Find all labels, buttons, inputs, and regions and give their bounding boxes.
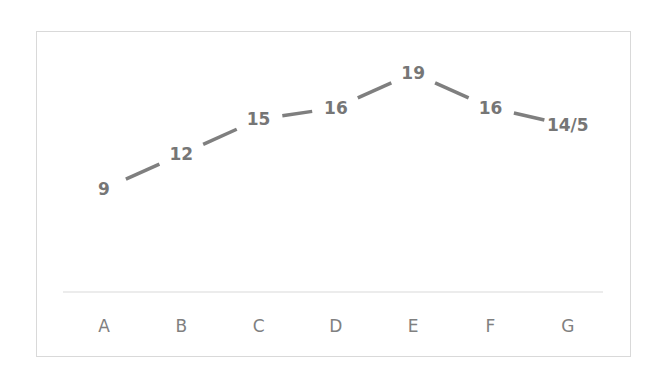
category-label: D <box>329 316 342 336</box>
line-segment <box>435 83 469 98</box>
data-label: 14/5 <box>547 115 589 135</box>
category-label: B <box>175 316 187 336</box>
line-chart: 9121516191614/5 ABCDEFG <box>0 0 664 377</box>
data-label: 12 <box>169 144 193 164</box>
line-segment <box>126 164 160 179</box>
category-axis-labels: ABCDEFG <box>98 316 574 336</box>
category-label: A <box>98 316 110 336</box>
category-label: E <box>408 316 419 336</box>
data-label: 16 <box>479 98 503 118</box>
category-label: G <box>561 316 574 336</box>
data-labels: 9121516191614/5 <box>98 63 589 199</box>
category-label: F <box>486 316 496 336</box>
data-label: 9 <box>98 179 110 199</box>
line-segment <box>203 129 237 144</box>
data-label: 15 <box>247 109 271 129</box>
category-label: C <box>253 316 265 336</box>
data-label: 16 <box>324 98 348 118</box>
line-segment <box>358 83 392 98</box>
line-segment <box>282 111 312 115</box>
line-segment <box>514 113 544 120</box>
data-label: 19 <box>401 63 425 83</box>
